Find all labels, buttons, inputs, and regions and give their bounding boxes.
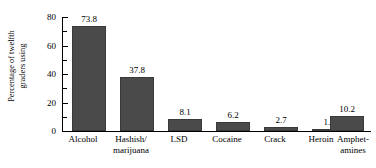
- x-axis-line: [62, 131, 371, 132]
- bar-rect-lsd: [168, 119, 202, 131]
- bar-lsd: 8.1: [168, 17, 202, 131]
- x-label-hashish-marijuana-line-1: Hashish/: [104, 134, 158, 145]
- y-tick-label-60: 60: [34, 42, 56, 51]
- bar-rect-hashish-marijuana: [120, 77, 154, 131]
- bar-value-alcohol: 73.8: [60, 15, 118, 24]
- bar-crack: 2.7: [264, 17, 298, 131]
- x-label-hashish-marijuana: Hashish/ marijuana: [104, 134, 158, 155]
- y-tick-mark-0: [63, 131, 68, 132]
- x-label-alcohol-line-1: Alcohol: [56, 134, 110, 145]
- bar-amphetamines: 10.2: [330, 17, 364, 131]
- x-label-cocaine-line-1: Cocaine: [200, 134, 254, 145]
- y-axis-title-line-1: Percentage of twelfth: [6, 30, 17, 102]
- x-label-lsd-line-1: LSD: [152, 134, 206, 145]
- y-tick-label-20: 20: [34, 99, 56, 108]
- bar-rect-crack: [264, 127, 298, 131]
- y-tick-label-40: 40: [34, 70, 56, 79]
- y-tick-label-80: 80: [34, 13, 56, 22]
- plot-area: 73.8 37.8 8.1 6.2 2.7 1.1 10.2: [63, 17, 371, 131]
- x-label-lsd: LSD: [152, 134, 206, 145]
- x-label-alcohol: Alcohol: [56, 134, 110, 145]
- x-label-cocaine: Cocaine: [200, 134, 254, 145]
- bar-rect-amphetamines: [330, 116, 364, 131]
- bar-chart: Percentage of twelfth graders using 80 6…: [0, 0, 376, 168]
- bar-rect-cocaine: [216, 122, 250, 131]
- bar-alcohol: 73.8: [72, 17, 106, 131]
- y-axis-title-line-2: graders using: [17, 30, 28, 102]
- x-label-hashish-marijuana-line-2: marijuana: [104, 145, 158, 156]
- x-label-amphetamines-line-2: amines: [330, 145, 376, 156]
- y-axis-title: Percentage of twelfth graders using: [0, 0, 34, 132]
- bar-rect-alcohol: [72, 26, 106, 131]
- bar-value-amphetamines: 10.2: [318, 105, 376, 114]
- bar-value-hashish-marijuana: 37.8: [108, 66, 166, 75]
- bar-hashish-marijuana: 37.8: [120, 17, 154, 131]
- y-tick-label-0: 0: [34, 127, 56, 136]
- bar-cocaine: 6.2: [216, 17, 250, 131]
- x-label-amphetamines: Amphet- amines: [330, 134, 376, 155]
- x-label-amphetamines-line-1: Amphet-: [330, 134, 376, 145]
